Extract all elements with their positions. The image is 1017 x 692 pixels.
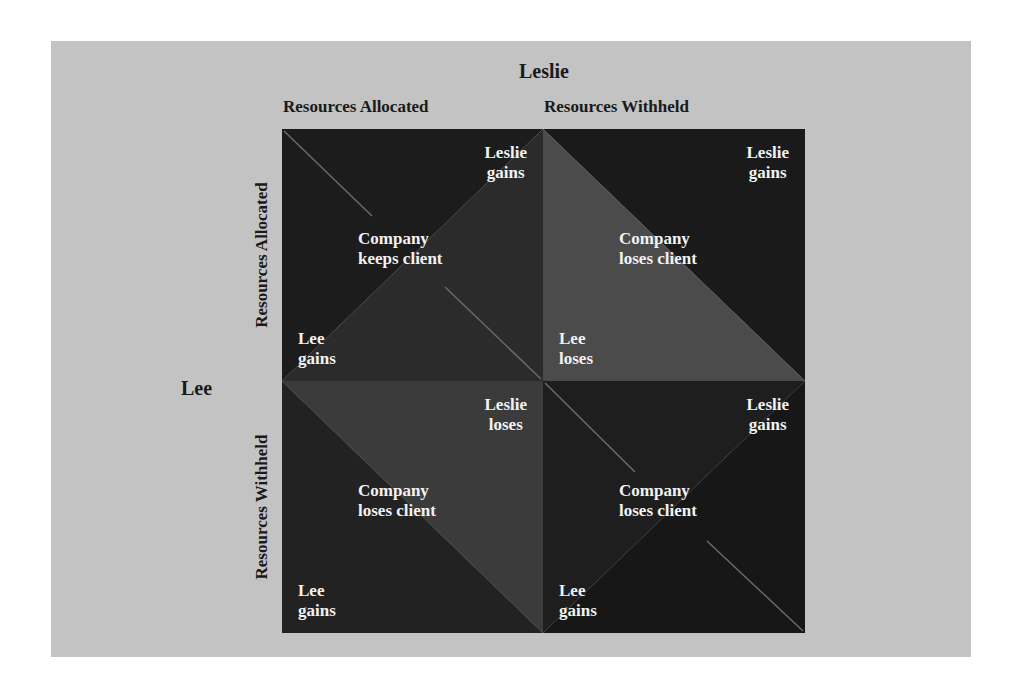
lee-outcome: Lee loses <box>559 329 593 369</box>
row-label-resources-withheld: Resources Withheld <box>251 381 273 633</box>
company-outcome: Company loses client <box>358 481 436 521</box>
company-outcome: Company loses client <box>619 481 697 521</box>
column-label-resources-allocated: Resources Allocated <box>283 97 429 117</box>
column-player-title: Leslie <box>283 60 805 83</box>
cell-withheld-withheld: Leslie gains Company loses client Lee ga… <box>543 381 805 633</box>
leslie-outcome: Leslie gains <box>747 143 790 183</box>
lee-outcome: Lee gains <box>298 581 336 621</box>
leslie-outcome: Leslie gains <box>747 395 790 435</box>
company-outcome: Company keeps client <box>358 229 443 269</box>
lee-outcome: Lee gains <box>559 581 597 621</box>
leslie-outcome: Leslie loses <box>485 395 528 435</box>
cell-allocated-withheld: Leslie gains Company loses client Lee lo… <box>543 129 805 381</box>
payoff-matrix: Leslie gains Company keeps client Lee ga… <box>282 129 805 633</box>
lee-outcome: Lee gains <box>298 329 336 369</box>
row-player-title: Lee <box>181 377 212 400</box>
company-outcome: Company loses client <box>619 229 697 269</box>
column-label-resources-withheld: Resources Withheld <box>544 97 689 117</box>
cell-withheld-allocated: Leslie loses Company loses client Lee ga… <box>282 381 543 633</box>
cell-allocated-allocated: Leslie gains Company keeps client Lee ga… <box>282 129 543 381</box>
leslie-outcome: Leslie gains <box>485 143 528 183</box>
row-label-resources-allocated: Resources Allocated <box>251 129 273 381</box>
